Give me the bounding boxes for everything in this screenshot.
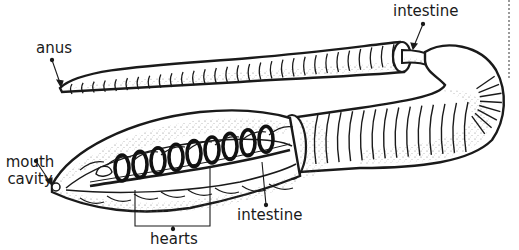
page-edge-dotted-line — [508, 0, 510, 78]
tail-segment — [60, 42, 411, 94]
label-mouth-cavity-line1: mouth — [0, 154, 60, 171]
label-intestine-bottom: intestine — [237, 207, 302, 224]
label-anus: anus — [36, 40, 72, 57]
intestine-top-leader — [411, 22, 425, 49]
label-mouth-cavity: mouth cavity — [0, 154, 60, 188]
label-mouth-cavity-line2: cavity — [0, 171, 60, 188]
label-hearts: hearts — [150, 231, 198, 248]
label-intestine-top: intestine — [393, 3, 458, 20]
anus-leader — [50, 58, 63, 87]
dissected-front-section — [52, 110, 300, 212]
earthworm-diagram: anus intestine mouth cavity hearts intes… — [0, 0, 519, 250]
